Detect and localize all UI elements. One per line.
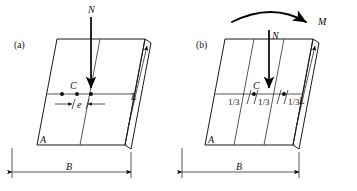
load-label-a: N [87, 4, 96, 15]
load-label-b: N [271, 30, 280, 41]
moment-label: M [317, 16, 327, 27]
width-label-b: B [236, 161, 242, 172]
slab-interior-lines-b [234, 39, 284, 145]
centroid-label-a: C [70, 80, 77, 91]
panel-b: N M C 1/3 1/3 1/3 A [182, 12, 327, 178]
corner-label-a: A [39, 134, 47, 145]
centroid-label-b: C [253, 80, 260, 91]
panel-a: N C e A L [12, 4, 151, 178]
diagram-canvas: N C e A L [0, 0, 357, 191]
length-label-a: L [130, 91, 137, 102]
slab-top-face-b [205, 39, 313, 145]
curved-moment-arrow [232, 12, 306, 22]
panel-tag-a: (a) [14, 40, 25, 51]
corner-label-b: A [207, 134, 215, 145]
length-label-b: L [298, 95, 305, 106]
eccentricity-label: e [77, 99, 82, 110]
third-label-middle: 1/3 [258, 97, 270, 107]
figure-root: N C e A L [0, 0, 357, 191]
panel-tag-b: (b) [196, 40, 207, 51]
width-label-a: B [66, 161, 72, 172]
slab-interior-line-a [80, 39, 100, 145]
third-label-left: 1/3 [228, 97, 240, 107]
